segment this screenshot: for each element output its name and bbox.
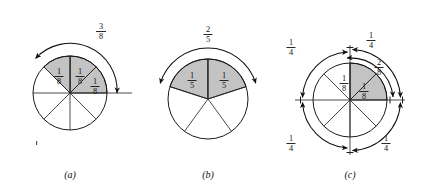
quadrant-label-c-tl-numerator: 1 (289, 38, 293, 47)
panel-c-axes (295, 45, 405, 155)
quadrant-label-c-bottom-right: 1 4 (382, 134, 391, 153)
divider-b-234 (185, 99, 209, 131)
arc-label-a-numerator: 3 (99, 22, 103, 31)
divider-c-315 (350, 100, 376, 126)
arc-label-a-denominator: 8 (99, 32, 103, 41)
figure-canvas: 3 8 1 8 1 8 1 8 (a) (0, 0, 427, 193)
print-speck-a (36, 141, 37, 145)
inner-label-a-1-denominator: 8 (57, 77, 61, 86)
quadrant-label-c-tl-denominator: 4 (289, 48, 294, 57)
arc-label-a: 3 8 (96, 22, 106, 41)
panel-c: 2 8 1 4 1 4 1 4 1 4 (287, 31, 406, 181)
divider-b-306 (208, 99, 232, 131)
inner-label-b-1-denominator: 5 (190, 81, 194, 90)
caption-c: (c) (344, 169, 356, 181)
quadrant-label-c-tr-denominator: 4 (369, 41, 374, 50)
divider-a-315 (70, 93, 96, 119)
panel-b: 2 5 1 5 1 5 (b) (160, 25, 256, 181)
quadrant-label-c-top-right: 1 4 (367, 31, 376, 50)
quadrant-label-c-bl-denominator: 4 (289, 144, 294, 153)
quadrant-label-c-bottom-left: 1 4 (287, 134, 296, 153)
inner-label-b-2-denominator: 5 (222, 81, 226, 90)
caption-b: (b) (202, 169, 214, 181)
quadrant-label-c-br-numerator: 1 (384, 134, 388, 143)
arc-label-c-denominator: 8 (377, 68, 381, 77)
arc-label-b-denominator: 5 (206, 35, 210, 44)
divider-a-225 (44, 93, 70, 119)
inner-label-c-1-numerator: 1 (342, 74, 346, 83)
quadrant-label-c-tr-numerator: 1 (369, 31, 373, 40)
inner-label-c-2-denominator: 8 (362, 92, 366, 101)
divider-c-225 (324, 100, 350, 126)
inner-label-a-1-numerator: 1 (57, 67, 61, 76)
inner-label-a-3-numerator: 1 (93, 77, 97, 86)
quadrant-label-c-br-denominator: 4 (384, 144, 389, 153)
quadrant-label-c-bl-numerator: 1 (289, 134, 293, 143)
inner-label-b-2-numerator: 1 (222, 71, 226, 80)
inner-label-c-1-denominator: 8 (342, 84, 346, 93)
fraction-circles-figure: 3 8 1 8 1 8 1 8 (a) (0, 0, 427, 193)
inner-label-c-1: 1 8 (340, 74, 349, 93)
panel-a: 3 8 1 8 1 8 1 8 (a) (33, 22, 132, 181)
inner-label-a-3-denominator: 8 (93, 87, 97, 96)
inner-label-b-1-numerator: 1 (190, 71, 194, 80)
caption-a: (a) (64, 169, 76, 181)
inner-label-c-2-numerator: 1 (362, 82, 366, 91)
inner-label-a-2-denominator: 8 (78, 77, 82, 86)
quadrant-label-c-top-left: 1 4 (287, 38, 296, 57)
arc-label-b-numerator: 2 (206, 25, 210, 34)
arc-label-b: 2 5 (204, 25, 213, 44)
arc-label-c-numerator: 2 (377, 58, 381, 67)
inner-label-a-2-numerator: 1 (78, 67, 82, 76)
